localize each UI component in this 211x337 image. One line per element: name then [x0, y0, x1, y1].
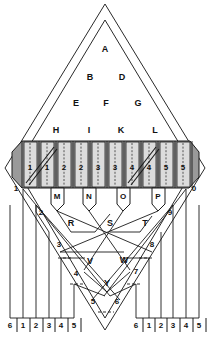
- terminal-label-left: 6: [5, 322, 15, 330]
- terminal-label-left: 1: [18, 322, 28, 330]
- terminal-label-right: 6: [131, 322, 141, 330]
- node-label-d: D: [116, 73, 128, 82]
- band-cell-number: 4: [145, 164, 153, 172]
- node-label-r: R: [65, 219, 77, 228]
- band-cell-number: 3: [111, 164, 119, 172]
- terminal-label-left: 4: [56, 322, 66, 330]
- band-cell-number: 4: [128, 164, 136, 172]
- node-label-i: I: [83, 126, 95, 135]
- tap-box-label-o: O: [118, 193, 128, 201]
- terminal-label-left: 3: [44, 322, 54, 330]
- band-cell-number: 1: [26, 164, 34, 172]
- scale-number: 9: [165, 209, 175, 217]
- node-label-v: V: [84, 257, 96, 266]
- terminal-label-right: 5: [194, 322, 204, 330]
- tap-box-label-p: P: [153, 193, 163, 201]
- node-label-f: F: [100, 99, 112, 108]
- scale-number: 8: [147, 241, 157, 249]
- band-edge-label-right: 0: [189, 185, 199, 193]
- scale-number: 3: [54, 241, 64, 249]
- band-cell-number: 2: [60, 164, 68, 172]
- scale-number: 2: [36, 209, 46, 217]
- terminal-label-right: 3: [168, 322, 178, 330]
- band-cell-number: 2: [77, 164, 85, 172]
- scale-number: 4: [71, 270, 81, 278]
- terminal-label-right: 1: [144, 322, 154, 330]
- node-label-e: E: [70, 99, 82, 108]
- terminal-label-right: 4: [181, 322, 191, 330]
- terminal-label-right: 2: [156, 322, 166, 330]
- node-label-t: T: [139, 219, 151, 228]
- band-cell-number: 1: [43, 164, 51, 172]
- band-cell-number: 3: [94, 164, 102, 172]
- node-label-y: Y: [101, 279, 113, 288]
- node-label-k: K: [115, 126, 127, 135]
- band-cell-number: 5: [162, 164, 170, 172]
- tap-box-label-n: N: [84, 193, 94, 201]
- scale-number: 6: [112, 298, 122, 306]
- terminal-label-left: 5: [69, 322, 79, 330]
- node-label-g: G: [132, 99, 144, 108]
- node-label-l: L: [149, 126, 161, 135]
- scale-number: 5: [88, 298, 98, 306]
- tap-box-label-m: M: [52, 193, 62, 201]
- figure-canvas: A B D E F G H I K L 1 1 2 2 3 3 4 4 5 5 …: [0, 0, 211, 337]
- node-label-b: B: [84, 73, 96, 82]
- tap-box-shapes: [51, 188, 165, 211]
- node-label-a: A: [99, 45, 111, 54]
- terminal-label-left: 2: [31, 322, 41, 330]
- node-label-h: H: [50, 126, 62, 135]
- scale-number: 7: [131, 268, 141, 276]
- band-edge-label-left: 1: [11, 185, 21, 193]
- node-label-s: S: [104, 219, 116, 228]
- band-cell-number: 5: [179, 164, 187, 172]
- node-label-w: W: [118, 256, 130, 265]
